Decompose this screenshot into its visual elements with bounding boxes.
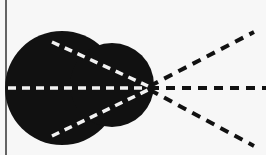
outer-dashed-rays: [150, 32, 266, 146]
outer-dashed-ray-lower: [150, 90, 254, 146]
focusing-rays-diagram: [0, 0, 266, 155]
outer-dashed-ray-upper: [150, 32, 254, 86]
